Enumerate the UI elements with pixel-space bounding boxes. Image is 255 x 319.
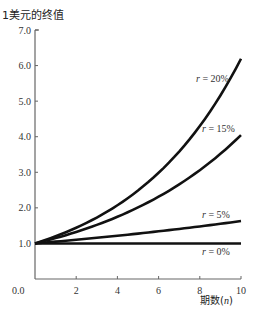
x-axis-variable: n xyxy=(224,295,229,306)
x-tick-label: 4 xyxy=(115,285,120,296)
x-tick-label: 0.0 xyxy=(12,285,25,296)
x-tick-label: 10 xyxy=(236,285,246,296)
y-tick-label: 3.0 xyxy=(19,167,32,178)
series-labels: r = 20%r = 15%r = 5%r = 0% xyxy=(196,73,235,257)
x-tick-label: 2 xyxy=(74,285,79,296)
y-axis: 1.02.03.04.05.06.07.0 xyxy=(19,25,40,280)
y-tick-label: 5.0 xyxy=(19,96,32,107)
series-label: r = 20% xyxy=(196,73,229,84)
series-label: r = 5% xyxy=(202,209,230,220)
y-tick-label: 2.0 xyxy=(19,202,32,213)
x-axis-title-text: 期数 xyxy=(200,295,220,306)
y-tick-label: 4.0 xyxy=(19,131,32,142)
y-tick-label: 7.0 xyxy=(19,25,32,36)
y-tick-label: 6.0 xyxy=(19,60,32,71)
series-label: r = 0% xyxy=(202,246,230,257)
y-tick-label: 1.0 xyxy=(19,238,32,249)
chart-plot: 1.02.03.04.05.06.07.0 0.0246810 r = 20%r… xyxy=(0,0,255,319)
x-tick-label: 6 xyxy=(156,285,161,296)
x-axis-title: 期数(n) xyxy=(200,292,233,307)
series-label: r = 15% xyxy=(202,123,235,134)
